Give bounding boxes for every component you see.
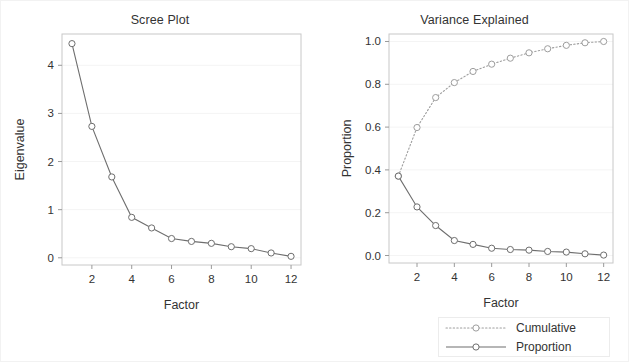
scree-plot-ytick-label: 4: [48, 59, 55, 71]
variance-explained-series-line: [398, 176, 603, 255]
variance-explained-data-point: [433, 94, 439, 100]
variance-explained-ytick-label: 1.0: [365, 35, 381, 47]
scree-plot-data-point: [89, 123, 95, 129]
variance-explained-data-point: [582, 251, 588, 257]
variance-explained-ytick-label: 0.2: [365, 207, 381, 219]
variance-explained-data-point: [470, 241, 476, 247]
variance-explained-data-point: [563, 42, 569, 48]
variance-explained-xtick-label: 4: [451, 271, 458, 283]
scree-plot-data-point: [208, 240, 214, 246]
legend-swatch-solid-line-icon: [444, 340, 508, 354]
variance-explained-data-point: [526, 50, 532, 56]
variance-explained-data-point: [526, 247, 532, 253]
variance-explained-data-point: [563, 249, 569, 255]
variance-explained-data-point: [545, 46, 551, 52]
variance-explained-data-point: [489, 245, 495, 251]
scree-plot-data-point: [69, 41, 75, 47]
variance-explained-data-point: [414, 204, 420, 210]
scree-plot-ytick-label: 3: [48, 107, 54, 119]
scree-plot-xtick-label: 6: [168, 273, 174, 285]
scree-plot-data-point: [109, 174, 115, 180]
variance-explained-data-point: [451, 79, 457, 85]
variance-explained-data-point: [395, 173, 401, 179]
chart-canvas: Scree Plot 0123424681012FactorEigenvalue…: [0, 0, 629, 362]
variance-explained-xtick-label: 10: [560, 271, 573, 283]
variance-explained-data-point: [582, 40, 588, 46]
variance-explained-xtick-label: 2: [414, 271, 420, 283]
legend: Cumulative Proportion: [438, 317, 610, 357]
variance-explained-data-point: [470, 68, 476, 74]
legend-label-proportion: Proportion: [508, 340, 571, 354]
variance-explained-series-line: [398, 41, 603, 176]
variance-explained-xtick-label: 6: [488, 271, 494, 283]
legend-item-cumulative[interactable]: Cumulative: [439, 318, 609, 337]
legend-swatch-dotted-line-icon: [444, 321, 508, 335]
variance-explained-data-point: [414, 124, 420, 130]
scree-plot-panel: Scree Plot 0123424681012FactorEigenvalue: [1, 1, 319, 362]
scree-plot-xtick-label: 2: [89, 273, 95, 285]
variance-explained-data-point: [507, 55, 513, 61]
variance-explained-xtick-label: 12: [597, 271, 610, 283]
variance-explained-panel: Variance Explained 0.00.20.40.60.81.0246…: [319, 1, 629, 362]
legend-item-proportion[interactable]: Proportion: [439, 337, 609, 356]
variance-explained-data-point: [451, 237, 457, 243]
scree-plot-data-point: [168, 235, 174, 241]
scree-plot-y-axis-title: Eigenvalue: [13, 119, 27, 181]
variance-explained-ytick-label: 0.4: [365, 164, 382, 176]
variance-explained-y-axis-title: Proportion: [340, 120, 354, 178]
scree-plot-data-point: [228, 244, 234, 250]
legend-label-cumulative: Cumulative: [508, 321, 576, 335]
scree-plot-ytick-label: 0: [48, 252, 54, 264]
variance-explained-ytick-label: 0.6: [365, 121, 381, 133]
variance-explained-xtick-label: 8: [526, 271, 532, 283]
scree-plot-xtick-label: 12: [285, 273, 298, 285]
scree-plot-ytick-label: 1: [48, 204, 54, 216]
variance-explained-x-axis-title: Factor: [483, 296, 518, 310]
variance-explained-data-point: [507, 246, 513, 252]
scree-plot-data-point: [149, 225, 155, 231]
scree-plot-xtick-label: 8: [208, 273, 214, 285]
variance-explained-data-point: [601, 252, 607, 258]
variance-explained-data-point: [545, 248, 551, 254]
scree-plot-series-line: [72, 44, 291, 257]
variance-explained-ytick-label: 0.0: [365, 250, 381, 262]
variance-explained-data-point: [601, 38, 607, 44]
scree-plot-data-point: [188, 238, 194, 244]
scree-plot-x-axis-title: Factor: [164, 298, 199, 312]
variance-explained-data-point: [433, 222, 439, 228]
variance-explained-ytick-label: 0.8: [365, 78, 381, 90]
scree-plot-data-point: [268, 250, 274, 256]
scree-plot-ytick-label: 2: [48, 156, 54, 168]
scree-plot-xtick-label: 4: [129, 273, 136, 285]
scree-plot-data-point: [129, 214, 135, 220]
variance-explained-svg: 0.00.20.40.60.81.024681012FactorProporti…: [319, 1, 629, 362]
scree-plot-data-point: [288, 253, 294, 259]
scree-plot-svg: 0123424681012FactorEigenvalue: [1, 1, 319, 362]
scree-plot-xtick-label: 10: [245, 273, 258, 285]
scree-plot-data-point: [248, 246, 254, 252]
variance-explained-data-point: [489, 61, 495, 67]
